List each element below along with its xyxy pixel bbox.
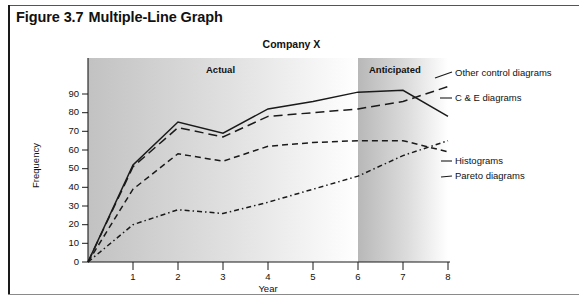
x-tick-label: 1	[125, 271, 141, 282]
x-tick-label: 7	[395, 271, 411, 282]
series-label-pareto-diagrams: Pareto diagrams	[455, 170, 525, 181]
figure-container: Figure 3.7Multiple-Line Graph Company X	[0, 0, 583, 305]
zone-bands	[88, 58, 448, 262]
y-tick-label: 40	[55, 181, 79, 192]
y-axis-ticks	[82, 94, 88, 262]
x-tick-label: 2	[170, 271, 186, 282]
x-axis-ticks	[133, 262, 448, 270]
x-tick-label: 3	[215, 271, 231, 282]
zone-label-anticipated: Anticipated	[369, 64, 421, 75]
y-tick-label: 0	[55, 256, 79, 267]
x-tick-label: 6	[350, 271, 366, 282]
y-tick-label: 20	[55, 218, 79, 229]
series-label-c-e-diagrams: C & E diagrams	[455, 92, 522, 103]
x-tick-label: 5	[305, 271, 321, 282]
y-tick-label: 60	[55, 144, 79, 155]
y-tick-label: 10	[55, 237, 79, 248]
x-axis-title: Year	[88, 283, 448, 294]
x-tick-label: 8	[440, 271, 456, 282]
series-label-other-control-diagrams: Other control diagrams	[455, 67, 552, 78]
y-tick-label: 50	[55, 162, 79, 173]
x-tick-label: 4	[260, 271, 276, 282]
zone-label-actual: Actual	[206, 64, 235, 75]
zone-band-actual	[88, 58, 358, 262]
y-tick-label: 80	[55, 106, 79, 117]
line-chart-svg	[0, 0, 583, 305]
y-tick-label: 90	[55, 88, 79, 99]
series-label-histograms: Histograms	[455, 155, 503, 166]
zone-band-anticipated	[358, 58, 448, 262]
y-tick-label: 70	[55, 125, 79, 136]
y-axis-title: Frequency	[30, 126, 41, 206]
chart-plot-area: Company X	[0, 0, 583, 305]
y-tick-label: 30	[55, 200, 79, 211]
